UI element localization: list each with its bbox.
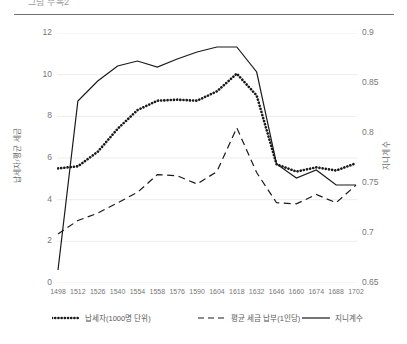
chart-legend: 납세자(1000명 단위)평균 세금 납부(1인당)지니계수	[0, 312, 407, 330]
title-divider	[14, 14, 394, 15]
legend-item-1[interactable]: 납세자(1000명 단위)	[52, 312, 151, 323]
y-axis-tick-right: 0.7	[362, 227, 402, 237]
legend-label: 납세자(1000명 단위)	[85, 312, 151, 323]
series-line-1	[58, 74, 356, 172]
y-axis-tick-right: 0.9	[362, 27, 402, 37]
plot-svg	[57, 33, 357, 283]
legend-swatch-dotted-icon	[52, 313, 80, 322]
chart-container: 그림 부록2 납세자/평균 세금 지니계수 0246810120.650.70.…	[0, 0, 407, 344]
y-axis-tick-right: 0.85	[362, 77, 402, 87]
legend-swatch-dashed-icon	[198, 313, 226, 322]
plot-area	[57, 33, 357, 283]
chart-title-strip: 그림 부록2	[0, 0, 407, 12]
y-axis-tick-left: 10	[12, 69, 52, 79]
y-axis-tick-left: 12	[12, 27, 52, 37]
page-title: 그림 부록2	[28, 0, 69, 8]
y-axis-tick-right: 0.65	[362, 277, 402, 287]
y-axis-tick-right: 0.8	[362, 127, 402, 137]
legend-label: 지니계수	[335, 312, 363, 323]
series-line-2	[58, 128, 356, 234]
legend-item-3[interactable]: 지니계수	[302, 312, 363, 323]
legend-item-2[interactable]: 평균 세금 납부(1인당)	[198, 312, 300, 323]
x-axis-tick: 1702	[343, 288, 369, 295]
y-axis-tick-right: 0.75	[362, 177, 402, 187]
y-axis-tick-left: 2	[12, 235, 52, 245]
y-axis-tick-left: 6	[12, 152, 52, 162]
y-axis-tick-left: 4	[12, 194, 52, 204]
y-axis-tick-left: 8	[12, 110, 52, 120]
legend-label: 평균 세금 납부(1인당)	[231, 312, 300, 323]
legend-swatch-solid-icon	[302, 313, 330, 322]
y-axis-tick-left: 0	[12, 277, 52, 287]
